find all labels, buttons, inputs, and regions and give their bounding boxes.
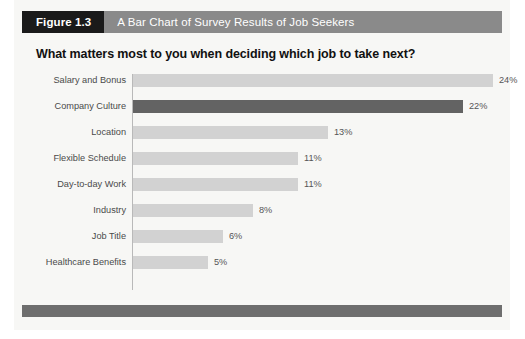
bar-value-label: 11%	[304, 178, 322, 191]
bar-value-label: 8%	[259, 204, 272, 217]
bar	[133, 230, 223, 243]
bar-category-label: Company Culture	[36, 100, 126, 113]
figure-number-tag: Figure 1.3	[22, 11, 104, 33]
bar-category-label: Job Title	[36, 230, 126, 243]
bar-row: Location13%	[36, 126, 502, 152]
bar-value-label: 24%	[499, 74, 517, 87]
bar-row: Company Culture22%	[36, 100, 502, 126]
figure-footer-bar	[22, 305, 502, 317]
bar-row: Healthcare Benefits5%	[36, 256, 502, 282]
bar	[133, 126, 328, 139]
bar-value-label: 6%	[229, 230, 242, 243]
bar-category-label: Day-to-day Work	[36, 178, 126, 191]
bar	[133, 74, 493, 87]
bar-value-label: 5%	[214, 256, 227, 269]
bar-row: Job Title6%	[36, 230, 502, 256]
bar-row: Salary and Bonus24%	[36, 74, 502, 100]
bar	[133, 204, 253, 217]
figure-header: Figure 1.3 A Bar Chart of Survey Results…	[22, 11, 502, 33]
bar-row: Industry8%	[36, 204, 502, 230]
bar-category-label: Industry	[36, 204, 126, 217]
chart-title: What matters most to you when deciding w…	[36, 47, 415, 61]
bar	[133, 152, 298, 165]
bar-value-label: 13%	[334, 126, 352, 139]
bar	[133, 100, 463, 113]
bar	[133, 256, 208, 269]
bar-chart-plot-area: Salary and Bonus24%Company Culture22%Loc…	[36, 74, 502, 292]
bar-category-label: Salary and Bonus	[36, 74, 126, 87]
bar-category-label: Location	[36, 126, 126, 139]
bar-value-label: 11%	[304, 152, 322, 165]
bar-row: Day-to-day Work11%	[36, 178, 502, 204]
figure-card: Figure 1.3 A Bar Chart of Survey Results…	[14, 0, 510, 330]
bar-category-label: Healthcare Benefits	[36, 256, 126, 269]
figure-caption: A Bar Chart of Survey Results of Job See…	[104, 11, 502, 33]
bar-value-label: 22%	[469, 100, 487, 113]
bar-category-label: Flexible Schedule	[36, 152, 126, 165]
bar-row: Flexible Schedule11%	[36, 152, 502, 178]
bar	[133, 178, 298, 191]
